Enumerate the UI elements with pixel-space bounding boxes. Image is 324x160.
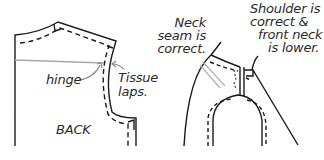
hinge-line [15, 60, 104, 63]
hinge-arrow-icon [79, 65, 100, 80]
back-piece-label: BACK [56, 124, 91, 136]
shoulder-label-line4: is lower. [268, 42, 319, 54]
hinge-label: hinge [46, 74, 81, 86]
tissue-label-line1: Tissue [118, 72, 158, 84]
shoulder-join-diagram [184, 42, 298, 146]
neck-label-line3: correct. [150, 43, 206, 55]
tissue-label-line2: laps. [118, 86, 148, 98]
